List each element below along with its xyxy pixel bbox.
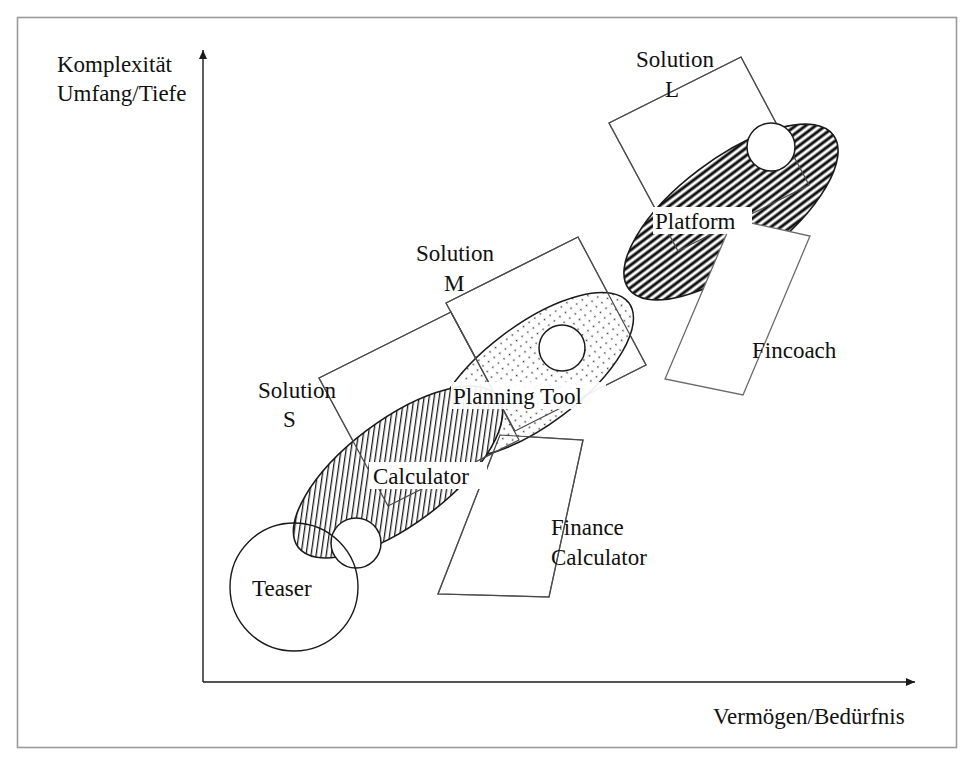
y-axis-label-line2: Umfang/Tiefe — [57, 81, 186, 106]
teaser-label: Teaser — [252, 576, 312, 601]
solution-l-label-line1: Solution — [636, 47, 714, 72]
platform-label: Platform — [655, 209, 736, 234]
platform-node-circle — [747, 123, 795, 171]
planning-tool-label: Planning Tool — [453, 384, 582, 409]
solution-m-label-line2: M — [444, 271, 464, 296]
y-axis-label-line1: Komplexität — [57, 52, 173, 77]
solution-m-label-line1: Solution — [416, 241, 494, 266]
positioning-diagram: Komplexität Umfang/Tiefe Vermögen/Bedürf… — [0, 0, 974, 769]
finance-calculator-label-line2: Calculator — [551, 545, 647, 570]
finance-calculator-label-line1: Finance — [551, 515, 624, 540]
diagram-canvas: Komplexität Umfang/Tiefe Vermögen/Bedürf… — [0, 0, 974, 769]
solution-l-label-line2: L — [665, 77, 679, 102]
calculator-label: Calculator — [373, 464, 469, 489]
solution-s-label-line2: S — [283, 407, 296, 432]
planning-tool-node-circle — [539, 325, 585, 371]
solution-s-label-line1: Solution — [258, 378, 336, 403]
x-axis-label: Vermögen/Bedürfnis — [713, 704, 905, 729]
fincoach-label: Fincoach — [752, 338, 837, 363]
